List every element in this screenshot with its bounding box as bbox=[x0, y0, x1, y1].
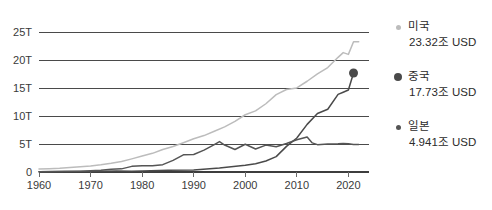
legend-label-usa: 미국 bbox=[408, 21, 430, 33]
legend-color-dot-icon bbox=[396, 25, 401, 30]
y-tick-label-0: 25T bbox=[0, 26, 32, 38]
y-tick-label-1: 20T bbox=[0, 54, 32, 66]
legend-value-china: 17.73조 USD bbox=[409, 87, 492, 99]
legend-color-dot-icon bbox=[396, 125, 401, 130]
legend-row-usa: 미국 bbox=[394, 20, 492, 34]
y-tick-label-3: 10T bbox=[0, 110, 32, 122]
legend-label-japan: 일본 bbox=[408, 121, 430, 133]
x-tick-label-5: 2010 bbox=[285, 179, 309, 191]
legend-color-dot-icon bbox=[394, 73, 402, 81]
legend-label-china: 중국 bbox=[408, 71, 430, 83]
legend-item-china[interactable]: 중국 17.73조 USD bbox=[394, 70, 492, 99]
legend-row-china: 중국 bbox=[394, 70, 492, 84]
y-tick-label-5: 0 bbox=[0, 166, 32, 178]
legend-item-usa[interactable]: 미국 23.32조 USD bbox=[394, 20, 492, 49]
legend-item-japan[interactable]: 일본 4.941조 USD bbox=[394, 120, 492, 149]
chart-legend: 미국 23.32조 USD 중국 17.73조 USD 일본 4.941조 US… bbox=[394, 8, 492, 158]
y-tick-label-4: 5T bbox=[0, 138, 32, 150]
legend-row-japan: 일본 bbox=[394, 120, 492, 134]
x-tick-label-6: 2020 bbox=[336, 179, 360, 191]
legend-value-japan: 4.941조 USD bbox=[409, 137, 492, 149]
x-tick-label-2: 1980 bbox=[130, 179, 154, 191]
plot-area: 25T20T15T10T5T0 196019701980199020002010… bbox=[0, 0, 380, 210]
legend-value-usa: 23.32조 USD bbox=[409, 37, 492, 49]
x-tick-label-1: 1970 bbox=[78, 179, 102, 191]
gdp-line-chart: 25T20T15T10T5T0 196019701980199020002010… bbox=[0, 0, 492, 210]
y-tick-label-2: 15T bbox=[0, 82, 32, 94]
x-tick-label-3: 1990 bbox=[181, 179, 205, 191]
x-tick-label-4: 2000 bbox=[233, 179, 257, 191]
x-tick-label-0: 1960 bbox=[27, 179, 51, 191]
